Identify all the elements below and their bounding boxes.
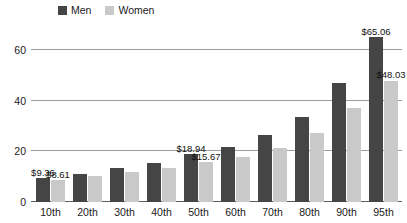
bar-women-95th[interactable]: $48.03: [384, 81, 398, 202]
bar-group: [332, 30, 361, 202]
x-axis-tick-90th: 90th: [332, 204, 361, 221]
x-axis-tick-70th: 70th: [258, 204, 287, 221]
bar-men-70th[interactable]: [258, 135, 272, 202]
legend-entry-women: Women: [105, 5, 154, 16]
y-axis-tick-label: 20: [14, 147, 26, 158]
bar-group: $18.94$15.67: [184, 30, 213, 202]
bar-women-90th[interactable]: [347, 108, 361, 202]
bar-group: [147, 30, 176, 202]
bar-group: $9.36$8.61: [36, 30, 65, 202]
chart-legend: Men Women: [58, 3, 154, 17]
bar-groups: $9.36$8.61$18.94$15.67$65.06$48.03: [31, 30, 402, 202]
legend-swatch-women: [105, 6, 114, 15]
x-axis-tick-20th: 20th: [73, 204, 102, 221]
x-axis-tick-95th: 95th: [369, 204, 398, 221]
bar-men-30th[interactable]: [110, 168, 124, 202]
bar-group: [110, 30, 139, 202]
bar-group: [73, 30, 102, 202]
x-axis-tick-10th: 10th: [36, 204, 65, 221]
x-axis-tick-30th: 30th: [110, 204, 139, 221]
bar-women-80th[interactable]: [310, 133, 324, 202]
bar-women-10th[interactable]: $8.61: [51, 180, 65, 202]
legend-label-women: Women: [118, 5, 154, 16]
x-axis-tick-60th: 60th: [221, 204, 250, 221]
bar-group: [295, 30, 324, 202]
bar-women-50th[interactable]: $15.67: [199, 162, 213, 202]
legend-swatch-men: [58, 6, 67, 15]
x-axis-labels: 10th20th30th40th50th60th70th80th90th95th: [31, 204, 402, 221]
legend-entry-men: Men: [58, 5, 91, 16]
bar-men-20th[interactable]: [73, 174, 87, 202]
bar-value-label: $65.06: [361, 27, 390, 37]
x-axis-tick-40th: 40th: [147, 204, 176, 221]
bar-men-40th[interactable]: [147, 163, 161, 202]
y-axis-tick-label: 0: [20, 197, 26, 208]
x-axis-tick-80th: 80th: [295, 204, 324, 221]
x-axis-tick-50th: 50th: [184, 204, 213, 221]
bar-value-label: $9.36: [31, 168, 55, 178]
bar-chart: Men Women 0204060 $9.36$8.61$18.94$15.67…: [0, 0, 407, 223]
legend-label-men: Men: [71, 5, 91, 16]
bar-women-70th[interactable]: [273, 148, 287, 202]
bar-men-10th[interactable]: $9.36: [36, 178, 50, 202]
plot-area: 0204060 $9.36$8.61$18.94$15.67$65.06$48.…: [31, 30, 402, 202]
bar-women-40th[interactable]: [162, 168, 176, 202]
bar-women-20th[interactable]: [88, 176, 102, 202]
y-axis-tick-label: 60: [14, 46, 26, 57]
bar-group: [258, 30, 287, 202]
bar-group: $65.06$48.03: [369, 30, 398, 202]
bar-women-30th[interactable]: [125, 172, 139, 202]
bar-men-50th[interactable]: $18.94: [184, 154, 198, 202]
bar-men-95th[interactable]: $65.06: [369, 37, 383, 202]
bar-men-80th[interactable]: [295, 117, 309, 202]
bar-women-60th[interactable]: [236, 157, 250, 202]
bar-group: [221, 30, 250, 202]
bar-men-90th[interactable]: [332, 83, 346, 202]
bar-men-60th[interactable]: [221, 147, 235, 202]
bar-value-label: $18.94: [176, 144, 205, 154]
y-axis-tick-label: 40: [14, 96, 26, 107]
